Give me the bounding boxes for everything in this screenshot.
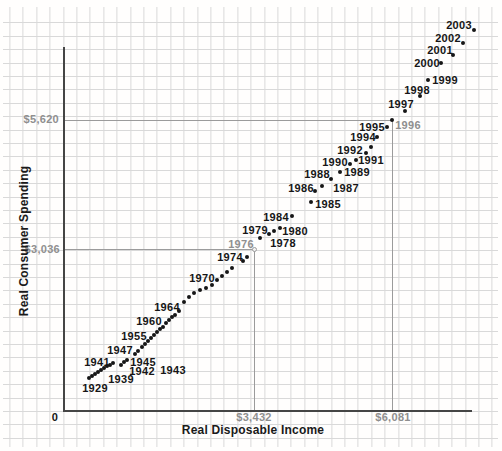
year-label: 1992 (337, 144, 363, 156)
data-point (369, 145, 373, 149)
year-label: 1984 (263, 211, 289, 223)
data-point (245, 255, 249, 259)
data-point (290, 214, 294, 218)
data-point (472, 28, 476, 32)
year-label: 1929 (82, 382, 108, 394)
data-point (220, 274, 224, 278)
year-label: 1986 (288, 182, 314, 194)
data-point (426, 78, 430, 82)
year-label: 1955 (121, 330, 147, 342)
data-point (272, 229, 276, 233)
data-point (320, 184, 324, 188)
data-point (230, 266, 234, 270)
tick-label: $6,081 (375, 411, 410, 423)
data-point (192, 291, 196, 295)
year-label: 1970 (189, 272, 215, 284)
year-label: 1997 (388, 98, 414, 110)
x-axis-line (63, 410, 472, 412)
year-label: 1947 (107, 344, 133, 356)
data-point (198, 288, 202, 292)
reference-line (392, 120, 393, 411)
data-point (309, 200, 313, 204)
reference-line (63, 120, 392, 121)
consumption-scatter-chart: 1929193919411942194319451947195519601964… (0, 0, 502, 451)
reference-line (254, 249, 255, 411)
year-label: 1943 (160, 364, 186, 376)
year-label: 1989 (344, 166, 370, 178)
data-point (125, 358, 129, 362)
year-label: 1999 (432, 74, 458, 86)
year-label: 1960 (136, 315, 162, 327)
year-label: 1964 (154, 301, 180, 313)
year-label: 1974 (217, 251, 243, 263)
data-point (173, 313, 177, 317)
y-axis-line (63, 47, 65, 411)
data-point (204, 286, 208, 290)
year-label: 1996 (395, 119, 421, 131)
year-label: 1995 (359, 121, 385, 133)
year-label: 1987 (333, 182, 359, 194)
y-axis-title: Real Consumer Spending (17, 141, 31, 341)
year-label: 1980 (282, 225, 308, 237)
year-label: 1990 (322, 156, 348, 168)
year-label: 1998 (404, 84, 430, 96)
tick-label: $5,620 (24, 113, 59, 125)
data-point (461, 41, 465, 45)
tick-label: $3,432 (236, 411, 271, 423)
year-label: 1988 (304, 168, 330, 180)
year-label: 1941 (84, 356, 110, 368)
data-point (385, 125, 389, 129)
year-label: 1985 (315, 198, 341, 210)
data-point (136, 349, 140, 353)
year-label: 1945 (130, 356, 156, 368)
data-point (338, 170, 342, 174)
year-label: 2001 (427, 44, 453, 56)
year-label: 1978 (270, 237, 296, 249)
data-point (390, 118, 394, 122)
year-label: 2000 (414, 57, 440, 69)
year-label: 2003 (446, 19, 472, 31)
data-point (111, 361, 115, 365)
year-label: 1976 (228, 238, 254, 250)
reference-line (63, 249, 254, 250)
data-point (187, 295, 191, 299)
year-label: 2002 (435, 32, 461, 44)
data-point (258, 236, 262, 240)
data-point (215, 278, 219, 282)
data-point (182, 300, 186, 304)
tick-label: 0 (52, 411, 58, 423)
x-axis-title: Real Disposable Income (123, 423, 383, 437)
year-label: 1979 (242, 224, 268, 236)
data-point (225, 270, 229, 274)
